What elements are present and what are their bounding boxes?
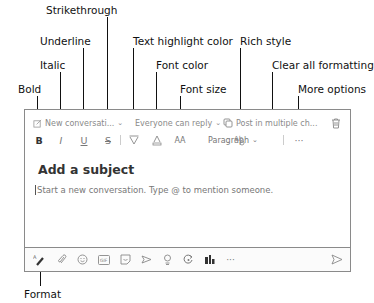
post-multiple-label: Post in multiple ch... <box>236 119 317 128</box>
reply-setting-dropdown[interactable]: Everyone can reply ⌄ <box>135 119 221 128</box>
bold-button[interactable]: B <box>33 132 45 148</box>
more-icon: ··· <box>294 135 303 146</box>
emoji-button[interactable] <box>76 253 89 266</box>
sticker-icon <box>120 254 131 265</box>
format-icon: A <box>33 254 45 266</box>
svg-text:Ab: Ab <box>234 135 244 143</box>
post-options-row: New conversati... ⌄ Everyone can reply ⌄… <box>33 116 342 130</box>
sticker-button[interactable] <box>119 253 132 266</box>
compose-panel: New conversati... ⌄ Everyone can reply ⌄… <box>24 109 351 272</box>
callout-strikethrough: Strikethrough <box>46 4 117 16</box>
italic-button[interactable]: I <box>55 132 67 148</box>
attach-icon <box>57 254 67 265</box>
callout-bold: Bold <box>18 83 41 95</box>
bold-icon: B <box>35 135 42 146</box>
praise-button[interactable] <box>161 253 174 266</box>
callout-italic: Italic <box>40 59 65 71</box>
subject-input[interactable]: Add a subject <box>38 162 134 177</box>
more-apps-button[interactable]: ··· <box>224 253 237 266</box>
toolbar-divider <box>120 135 121 145</box>
loop-button[interactable] <box>140 253 153 266</box>
rich-style-button[interactable]: Ab <box>233 132 247 148</box>
underline-button[interactable]: U <box>78 132 90 148</box>
svg-text:A: A <box>33 254 37 260</box>
gif-button[interactable]: GIF <box>97 253 110 266</box>
more-icon: ··· <box>226 255 235 265</box>
chevron-down-icon: ⌄ <box>252 136 258 144</box>
callout-font-size: Font size <box>180 83 227 95</box>
font-color-icon <box>152 135 162 146</box>
callout-text-highlight: Text highlight color <box>133 35 233 47</box>
post-multiple-button[interactable]: Post in multiple ch... <box>223 118 317 128</box>
post-type-dropdown[interactable]: New conversati... ⌄ <box>33 119 123 128</box>
callout-underline: Underline <box>40 35 91 47</box>
send-icon <box>331 254 343 265</box>
trash-icon <box>331 118 341 129</box>
strikethrough-icon: S <box>105 135 111 146</box>
italic-icon: I <box>60 135 63 146</box>
delete-button[interactable] <box>331 118 341 129</box>
callout-more-options: More options <box>298 83 366 95</box>
updates-button[interactable] <box>203 253 216 266</box>
message-input[interactable]: Start a new conversation. Type @ to ment… <box>35 185 273 195</box>
approvals-icon <box>183 254 194 265</box>
post-type-label: New conversati... <box>45 119 114 128</box>
loop-icon <box>141 254 152 265</box>
callout-rich-style: Rich style <box>240 35 291 47</box>
font-size-icon: AA <box>174 136 185 145</box>
callout-format: Format <box>24 288 61 300</box>
font-color-button[interactable] <box>151 132 163 148</box>
attach-button[interactable] <box>55 253 68 266</box>
clear-format-icon: Ab <box>234 134 246 146</box>
font-size-button[interactable]: AA <box>173 132 187 148</box>
compose-actions-bar: A GIF <box>25 247 350 271</box>
chevron-down-icon: ⌄ <box>117 119 123 127</box>
chevron-down-icon: ⌄ <box>215 119 221 127</box>
callout-clear-formatting: Clear all formatting <box>272 59 374 71</box>
praise-icon <box>163 254 172 265</box>
strikethrough-button[interactable]: S <box>102 132 114 148</box>
emoji-icon <box>77 254 88 265</box>
new-post-icon <box>33 119 42 128</box>
underline-icon: U <box>81 135 88 146</box>
format-button[interactable]: A <box>32 253 45 266</box>
more-options-button[interactable]: ··· <box>293 132 305 148</box>
format-toolbar: B I U S AA Paragraph ⌄ <box>25 132 350 148</box>
toolbar-divider <box>283 135 284 145</box>
gif-icon: GIF <box>98 255 110 265</box>
copy-channels-icon <box>223 118 233 128</box>
reply-setting-label: Everyone can reply <box>135 119 212 128</box>
send-button[interactable] <box>330 253 343 266</box>
svg-text:GIF: GIF <box>100 258 108 263</box>
updates-icon <box>204 254 215 265</box>
callout-font-color: Font color <box>156 59 208 71</box>
approvals-button[interactable] <box>182 253 195 266</box>
highlight-icon <box>129 135 139 146</box>
text-highlight-button[interactable] <box>128 132 140 148</box>
